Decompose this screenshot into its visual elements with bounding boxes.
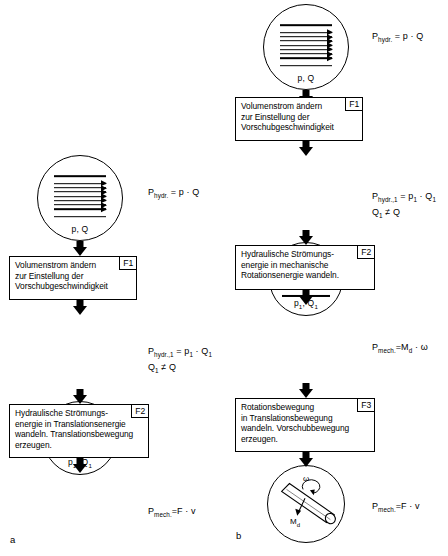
flow-arrow — [73, 241, 87, 256]
flow-line — [54, 204, 106, 205]
panel-a: p, Q Phydr. = p · Q Volumenstrom ändern … — [0, 0, 224, 556]
formula-p-hydr-1: Phydr.,1 = p1 · Q1Q1 ≠ Q — [148, 345, 212, 377]
process-box-f1: Volumenstrom ändern zur Einstellung der … — [235, 97, 363, 141]
flow-line — [280, 53, 332, 54]
formula-p-mech-translation: Pmech.=F · v — [148, 505, 196, 521]
plate-bottom — [54, 216, 106, 218]
plate-bottom — [280, 65, 332, 67]
flow-arrow — [299, 141, 313, 156]
process-box-text: Volumenstrom ändern zur Einstellung der … — [15, 260, 132, 292]
flow-symbol — [54, 175, 106, 217]
flow-lines — [280, 26, 332, 65]
torque-label: Md — [290, 517, 300, 528]
process-box-f2: Hydraulische Strömungs- energie in Trans… — [9, 404, 149, 458]
flow-arrow — [73, 300, 87, 315]
symbol-caption: p, Q — [72, 224, 89, 234]
formula-p-hydr: Phydr. = p · Q — [148, 186, 199, 202]
shaft-symbol: ω Md — [267, 465, 345, 543]
process-box-text: Volumenstrom ändern zur Einstellung der … — [241, 101, 358, 133]
formula-p-hydr: Phydr. = p · Q — [372, 30, 423, 46]
flow-arrow — [73, 389, 87, 404]
symbol-caption: p, Q — [298, 73, 315, 83]
process-tag-f1: F1 — [345, 97, 363, 111]
process-tag-f3: F3 — [357, 398, 375, 412]
flow-line — [54, 183, 106, 184]
process-tag-f1: F1 — [119, 256, 137, 270]
flow-line — [54, 200, 106, 201]
process-box-text: Hydraulische Strömungs- energie in mecha… — [241, 249, 370, 281]
panel-letter-a: a — [10, 534, 15, 545]
panel-letter-b: b — [236, 530, 241, 541]
flow-arrow — [299, 452, 313, 467]
flow-line — [54, 209, 106, 210]
process-tag-f2: F2 — [357, 245, 375, 259]
flow-arrow — [299, 230, 313, 245]
flow-line — [280, 36, 332, 37]
hydraulic-symbol-pq: p, Q — [263, 4, 349, 90]
flow-line — [54, 191, 106, 192]
flow-line — [280, 45, 332, 46]
flow-arrow — [299, 290, 313, 305]
process-box-f1: Volumenstrom ändern zur Einstellung der … — [9, 256, 137, 300]
flow-line — [280, 58, 332, 59]
process-box-text: Rotationsbewegung in Translationsbewegun… — [241, 402, 370, 444]
panel-b: p, Q Phydr. = p · Q Volumenstrom ändern … — [224, 0, 448, 556]
process-box-f2: Hydraulische Strömungs- energie in mecha… — [235, 245, 375, 290]
process-box-f3: Rotationsbewegung in Translationsbewegun… — [235, 398, 375, 452]
formula-p-hydr-1: Phydr.,1 = p1 · Q1Q1 ≠ Q — [372, 190, 436, 222]
flow-line — [280, 40, 332, 41]
flow-line — [54, 196, 106, 197]
process-chain-figure: p, Q Phydr. = p · Q Volumenstrom ändern … — [0, 0, 448, 556]
formula-p-mech-rotation: Pmech.=Md · ω — [372, 341, 428, 357]
hydraulic-symbol-pq: p, Q — [37, 155, 123, 241]
flow-line — [54, 187, 106, 188]
formula-p-mech-translation: Pmech.=F · v — [372, 500, 420, 516]
flow-line — [280, 32, 332, 33]
flow-line — [280, 49, 332, 50]
flow-arrow — [299, 383, 313, 398]
flow-arrow — [73, 458, 87, 473]
flow-symbol — [280, 24, 332, 66]
process-tag-f2: F2 — [131, 404, 149, 418]
omega-label: ω — [303, 474, 309, 483]
process-box-text: Hydraulische Strömungs- energie in Trans… — [15, 408, 144, 450]
flow-lines — [54, 177, 106, 216]
